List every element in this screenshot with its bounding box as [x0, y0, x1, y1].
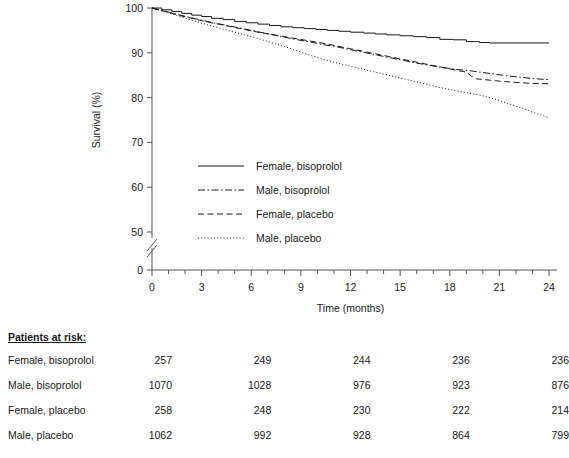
legend-label-1: Male, bisoprolol: [256, 184, 330, 196]
km-svg-canvas: 0506070809010003691215182124 Female, bis…: [0, 0, 565, 325]
x-tick-label: 6: [248, 281, 254, 293]
survival-curve-0: [152, 8, 549, 43]
legend-label-0: Female, bisoprolol: [256, 160, 342, 172]
kaplan-meier-plot: 0506070809010003691215182124 Female, bis…: [0, 0, 565, 325]
y-tick-label: 0: [137, 264, 143, 276]
risk-cell: 876: [529, 379, 569, 391]
risk-cell: 249: [231, 354, 271, 366]
y-tick-label: 50: [131, 226, 143, 238]
risk-cell: 258: [132, 404, 172, 416]
risk-cell: 864: [430, 429, 470, 441]
y-tick-label: 70: [131, 136, 143, 148]
risk-cell: 928: [331, 429, 371, 441]
y-tick-label: 80: [131, 92, 143, 104]
risk-row-label: Male, bisoprolol: [8, 379, 82, 391]
risk-row-label: Female, bisoprolol: [8, 354, 94, 366]
risk-cell: 1028: [231, 379, 271, 391]
survival-curve-3: [152, 8, 549, 118]
risk-cell: 214: [529, 404, 569, 416]
patients-at-risk-table: Patients at risk: Female, bisoprolol2572…: [0, 325, 565, 458]
risk-cell: 992: [231, 429, 271, 441]
legend-label-3: Male, placebo: [256, 232, 322, 244]
x-tick-label: 24: [543, 281, 555, 293]
survival-curve-2: [152, 8, 549, 84]
x-axis-title: Time (months): [317, 302, 384, 314]
risk-cell: 799: [529, 429, 569, 441]
axes-group: 0506070809010003691215182124: [125, 2, 557, 293]
risk-cell: 236: [430, 354, 470, 366]
curves-group: [152, 8, 549, 118]
y-tick-label: 100: [125, 2, 143, 14]
x-tick-label: 18: [444, 281, 456, 293]
risk-row-label: Male, placebo: [8, 429, 73, 441]
risk-cell: 230: [331, 404, 371, 416]
x-tick-label: 9: [298, 281, 304, 293]
risk-row: Male, bisoprolol10701028976923876: [0, 379, 565, 401]
risk-cell: 236: [529, 354, 569, 366]
risk-cell: 1062: [132, 429, 172, 441]
legend-group: Female, bisoprololMale, bisoprololFemale…: [198, 160, 342, 244]
y-axis-title: Survival (%): [90, 92, 102, 149]
y-tick-label: 60: [131, 181, 143, 193]
risk-cell: 1070: [132, 379, 172, 391]
x-tick-label: 15: [394, 281, 406, 293]
x-tick-label: 0: [149, 281, 155, 293]
risk-cell: 222: [430, 404, 470, 416]
risk-cell: 923: [430, 379, 470, 391]
risk-cell: 257: [132, 354, 172, 366]
axis-labels-group: Time (months)Survival (%): [90, 92, 384, 314]
risk-row: Female, bisoprolol257249244236236: [0, 354, 565, 376]
x-tick-label: 21: [494, 281, 506, 293]
patients-at-risk-header: Patients at risk:: [8, 331, 86, 343]
x-tick-label: 3: [199, 281, 205, 293]
risk-cell: 248: [231, 404, 271, 416]
risk-row: Male, placebo1062992928864799: [0, 429, 565, 451]
legend-label-2: Female, placebo: [256, 208, 334, 220]
risk-cell: 976: [331, 379, 371, 391]
risk-row-label: Female, placebo: [8, 404, 86, 416]
x-tick-label: 12: [345, 281, 357, 293]
y-tick-label: 90: [131, 47, 143, 59]
risk-cell: 244: [331, 354, 371, 366]
risk-row: Female, placebo258248230222214: [0, 404, 565, 426]
